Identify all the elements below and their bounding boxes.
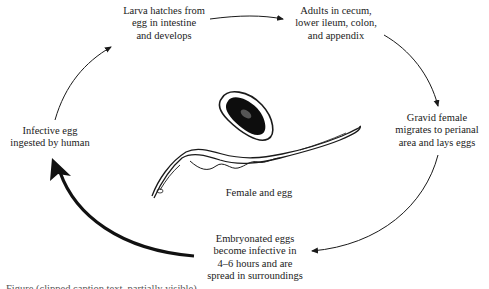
stage-line: Infective egg [2,125,98,137]
illustration-label-text: Female and egg [214,187,304,199]
stage-larva-hatches: Larva hatches from egg in intestine and … [113,5,215,42]
figure-caption-clipped: Figure (clipped caption text, partially … [0,283,489,289]
pinworm-life-cycle-diagram: Larva hatches from egg in intestine and … [0,0,489,289]
caption-text: Figure (clipped caption text, partially … [6,283,197,289]
stage-line: and appendix [290,30,382,42]
arrow-larva-to-adults [210,16,283,19]
stage-line: migrates to perianal [385,124,489,136]
arrow-infective-to-larva [55,47,111,120]
stage-gravid-female: Gravid female migrates to perianal area … [385,112,489,149]
stage-line: Adults in cecum, [290,5,382,17]
stage-line: Embryonated eggs [193,233,317,245]
arrow-gravid-to-embryonated [312,155,438,251]
egg-icon [219,92,272,140]
arrow-embryonated-to-infective [60,172,194,256]
stage-line: Larva hatches from [113,5,215,17]
stage-line: ingested by human [2,137,98,149]
stage-line: become infective in [193,245,317,257]
illustration-label: Female and egg [214,187,304,199]
stage-line: egg in intestine [113,17,215,29]
arrow-adults-to-gravid [384,35,438,106]
stage-line: area and lays eggs [385,137,489,149]
stage-adults-location: Adults in cecum, lower ileum, colon, and… [290,5,382,42]
stage-embryonated-eggs: Embryonated eggs become infective in 4–6… [193,233,317,283]
stage-line: and develops [113,30,215,42]
stage-line: 4–6 hours and are [193,258,317,270]
stage-line: lower ileum, colon, [290,17,382,29]
stage-line: spread in surroundings [193,270,317,282]
stage-line: Gravid female [385,112,489,124]
stage-infective-egg: Infective egg ingested by human [2,125,98,150]
